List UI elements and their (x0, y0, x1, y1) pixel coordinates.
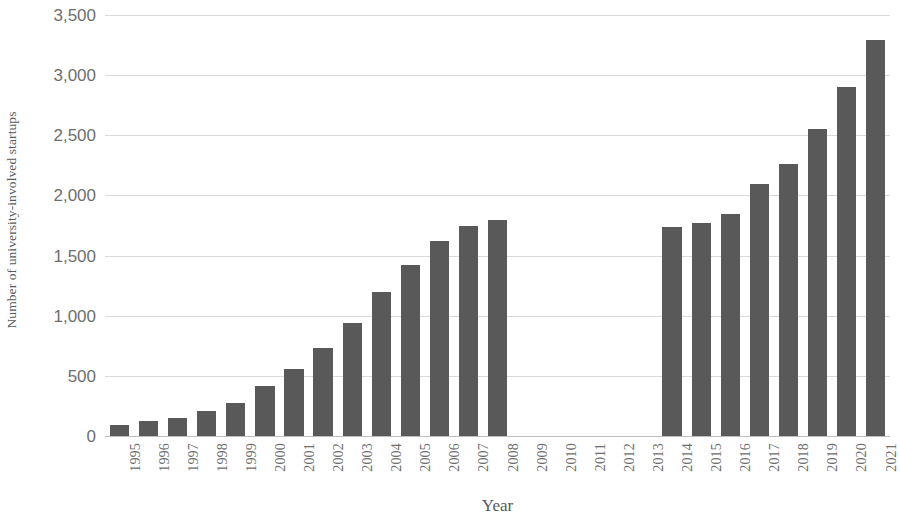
x-tick-slot: 2002 (309, 441, 338, 493)
bar (313, 348, 332, 437)
bar (692, 223, 711, 437)
bar-slot (192, 0, 221, 437)
bar (750, 184, 769, 437)
bar (459, 226, 478, 437)
y-axis-tick-label: 3,000 (24, 67, 96, 84)
x-tick-slot: 2006 (425, 441, 454, 493)
bar (197, 411, 216, 437)
y-axis-tick-label: 2,500 (24, 127, 96, 144)
x-tick-slot: 2017 (745, 441, 774, 493)
y-axis-tick-label: 1,500 (24, 247, 96, 264)
x-tick-slot: 2018 (774, 441, 803, 493)
bar-slot (570, 0, 599, 437)
x-axis-tick-label: 2021 (884, 443, 900, 472)
x-tick-slot: 2011 (570, 441, 599, 493)
x-tick-slot: 2012 (599, 441, 628, 493)
bar-slot (541, 0, 570, 437)
bar (372, 292, 391, 437)
x-tick-slot: 2016 (716, 441, 745, 493)
y-axis-tick-label: 1,000 (24, 307, 96, 324)
x-tick-slot: 2010 (541, 441, 570, 493)
x-tick-slot: 2008 (483, 441, 512, 493)
x-tick-slot: 1996 (134, 441, 163, 493)
bar-slot (483, 0, 512, 437)
bar (139, 421, 158, 437)
y-axis-tick-label: 0 (24, 428, 96, 445)
x-tick-slot: 1998 (192, 441, 221, 493)
x-tick-slot: 2015 (687, 441, 716, 493)
bar-slot (221, 0, 250, 437)
bar-slot (105, 0, 134, 437)
y-axis-tick-labels: 05001,0001,5002,0002,5003,0003,500 (24, 0, 102, 450)
bar-slot (134, 0, 163, 437)
bar (837, 87, 856, 437)
bar (430, 241, 449, 437)
y-axis-title-text: Number of university-involved startups (4, 111, 20, 328)
x-tick-slot: 1995 (105, 441, 134, 493)
x-tick-slot: 2005 (396, 441, 425, 493)
bar-slot (599, 0, 628, 437)
bar-slot (309, 0, 338, 437)
bar-slot (396, 0, 425, 437)
x-tick-slot: 1999 (221, 441, 250, 493)
bar-slot (425, 0, 454, 437)
y-axis-title: Number of university-involved startups (0, 0, 24, 440)
bar-slot (250, 0, 279, 437)
bar-slot (716, 0, 745, 437)
plot-area (105, 0, 890, 437)
bar-slot (774, 0, 803, 437)
x-tick-slot: 2009 (512, 441, 541, 493)
bar (779, 164, 798, 437)
bar (662, 227, 681, 438)
bar (255, 386, 274, 437)
y-axis-tick-label: 3,500 (24, 7, 96, 24)
bar (284, 369, 303, 437)
bar-slot (367, 0, 396, 437)
bar-slot (338, 0, 367, 437)
bar-slot (803, 0, 832, 437)
bar (343, 323, 362, 437)
bar (808, 129, 827, 437)
y-axis-tick-label: 500 (24, 367, 96, 384)
x-tick-slot: 2019 (803, 441, 832, 493)
bar-slot (628, 0, 657, 437)
bar-series (105, 0, 890, 437)
x-axis-tick-labels: 1995199619971998199920002001200220032004… (105, 441, 890, 493)
x-tick-slot: 2004 (367, 441, 396, 493)
bar (866, 40, 885, 437)
x-tick-slot: 2013 (628, 441, 657, 493)
x-tick-slot: 2001 (279, 441, 308, 493)
x-tick-slot: 2020 (832, 441, 861, 493)
bar-slot (832, 0, 861, 437)
x-tick-slot: 2000 (250, 441, 279, 493)
bar-slot (687, 0, 716, 437)
bar (226, 403, 245, 437)
y-axis-tick-label: 2,000 (24, 187, 96, 204)
bar-slot (279, 0, 308, 437)
bar (168, 418, 187, 437)
x-tick-slot: 2007 (454, 441, 483, 493)
bar (488, 220, 507, 437)
x-tick-slot: 2021 (861, 441, 890, 493)
x-axis-title: Year (105, 496, 890, 516)
x-tick-slot: 1997 (163, 441, 192, 493)
bar-slot (657, 0, 686, 437)
bar (401, 265, 420, 437)
bar-slot (163, 0, 192, 437)
bar-slot (745, 0, 774, 437)
bar-slot (454, 0, 483, 437)
bar (721, 214, 740, 437)
bar-slot (512, 0, 541, 437)
x-tick-slot: 2014 (657, 441, 686, 493)
bar-slot (861, 0, 890, 437)
axis-baseline (105, 436, 890, 437)
x-tick-slot: 2003 (338, 441, 367, 493)
